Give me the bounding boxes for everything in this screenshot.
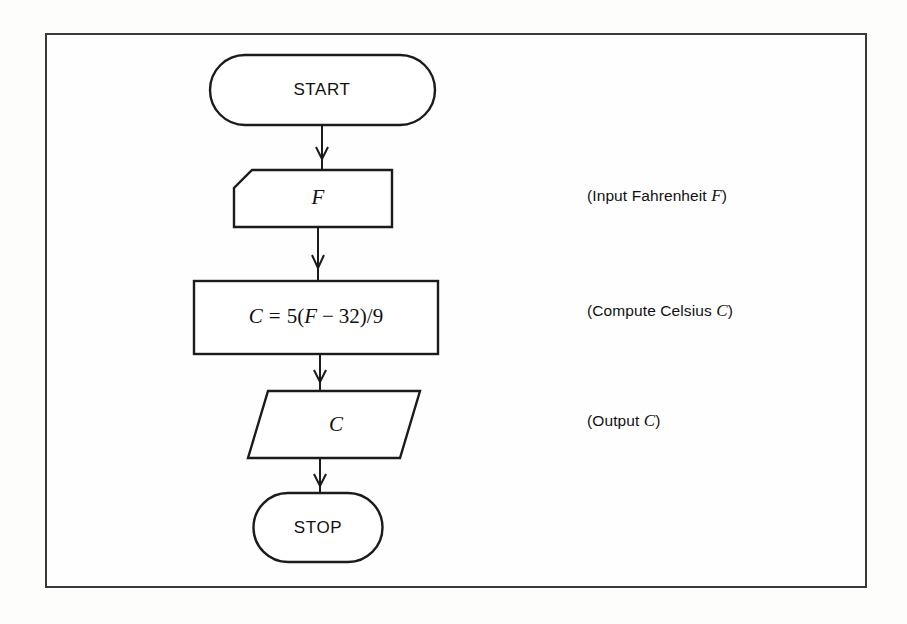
annotation-prefix: (Compute Celsius xyxy=(587,302,716,319)
annotation-suffix: ) xyxy=(728,302,733,319)
annotation-prefix: (Input Fahrenheit xyxy=(587,187,711,204)
connector-process-to-output xyxy=(314,354,326,391)
node-start[interactable]: START xyxy=(210,55,435,125)
process-minus: − xyxy=(322,304,334,328)
annotation-variable: F xyxy=(711,186,721,205)
connector-input-to-process xyxy=(312,227,324,281)
node-stop[interactable]: STOP xyxy=(254,493,383,562)
process-divisor: 9 xyxy=(373,304,384,328)
annotation-variable: C xyxy=(644,411,655,430)
stop-label: STOP xyxy=(294,518,342,537)
annotation-prefix: (Output xyxy=(587,412,644,429)
annotation-output-note: (Output C) xyxy=(587,411,661,431)
annotation-input-note: (Input Fahrenheit F) xyxy=(587,186,727,206)
start-label: START xyxy=(293,80,350,99)
process-close-paren: ) xyxy=(360,304,367,328)
annotation-suffix: ) xyxy=(722,187,727,204)
annotation-suffix: ) xyxy=(655,412,660,429)
process-lhs: C xyxy=(249,304,264,328)
input-label: F xyxy=(311,185,325,209)
flowchart-diagram: START F C=5(F−32)/9 xyxy=(0,0,907,624)
process-label: C=5(F−32)/9 xyxy=(249,304,383,328)
connector-output-to-stop xyxy=(314,458,326,495)
node-process[interactable]: C=5(F−32)/9 xyxy=(194,281,438,354)
node-output[interactable]: C xyxy=(248,391,420,458)
process-coefficient: 5 xyxy=(287,304,298,328)
process-equals: = xyxy=(269,304,281,328)
annotation-process-note: (Compute Celsius C) xyxy=(587,301,733,321)
figure-canvas: START F C=5(F−32)/9 xyxy=(0,0,907,624)
process-constant: 32 xyxy=(339,304,360,328)
annotation-variable: C xyxy=(716,301,727,320)
output-label: C xyxy=(329,412,344,436)
process-rhs-var: F xyxy=(303,304,317,328)
process-open-paren: ( xyxy=(297,304,304,328)
connector-start-to-input xyxy=(316,125,328,170)
node-input[interactable]: F xyxy=(234,170,392,227)
